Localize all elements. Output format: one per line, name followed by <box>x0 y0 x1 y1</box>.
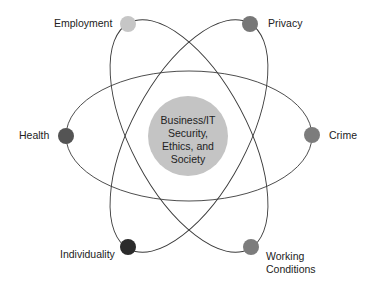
node-crime <box>304 127 320 143</box>
label-working-conditions: Working Conditions <box>266 250 316 276</box>
node-privacy <box>242 16 258 32</box>
node-employment <box>120 16 136 32</box>
node-working-conditions <box>243 239 259 255</box>
label-working-line-1: Working <box>266 250 316 263</box>
hub-line-4: Society <box>147 153 229 166</box>
label-health: Health <box>19 129 49 142</box>
hub-line-1: Business/IT <box>147 114 229 127</box>
center-hub-label: Business/IT Security, Ethics, and Societ… <box>147 114 229 166</box>
label-privacy: Privacy <box>268 17 302 30</box>
hub-line-2: Security, <box>147 127 229 140</box>
label-working-line-2: Conditions <box>266 263 316 276</box>
label-individuality: Individuality <box>60 248 115 261</box>
hub-line-3: Ethics, and <box>147 140 229 153</box>
node-individuality <box>120 239 136 255</box>
node-health <box>58 128 74 144</box>
label-employment: Employment <box>54 17 112 30</box>
label-crime: Crime <box>329 129 357 142</box>
